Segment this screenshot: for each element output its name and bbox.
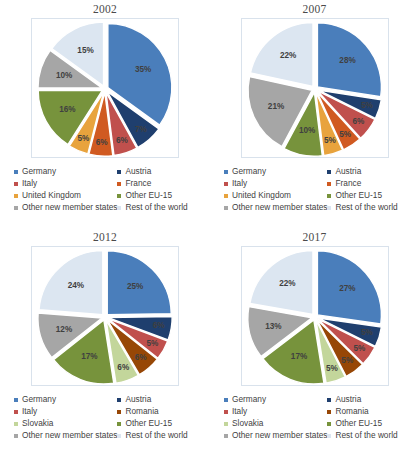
- legend-item-label: Italy: [232, 178, 247, 189]
- legend-swatch-icon: [224, 206, 228, 210]
- legend-item[interactable]: Rest of the world: [117, 430, 200, 441]
- legend-swatch-icon: [117, 182, 121, 186]
- legend-swatch-icon: [117, 170, 121, 174]
- legend-item-label: Austria: [335, 394, 361, 405]
- legend-item[interactable]: Germany: [224, 394, 327, 405]
- pie-slice-label: 5%: [146, 339, 159, 348]
- legend-item[interactable]: Slovakia: [14, 418, 117, 429]
- legend-item[interactable]: Other EU-15: [117, 418, 200, 429]
- legend-item[interactable]: Italy: [224, 406, 327, 417]
- legend-item[interactable]: Rest of the world: [327, 430, 409, 441]
- legend-item-label: Austria: [335, 166, 361, 177]
- legend-item[interactable]: Romania: [117, 406, 200, 417]
- chart-title-2017: 2017: [210, 229, 419, 245]
- legend-swatch-icon: [117, 422, 121, 426]
- legend-item-label: Rest of the world: [335, 430, 397, 441]
- legend-item[interactable]: France: [117, 178, 200, 189]
- legend-2017: GermanyAustriaItalyRomaniaSlovakiaOther …: [210, 394, 419, 441]
- legend-item-label: Other new member states: [22, 430, 117, 441]
- legend-item[interactable]: Germany: [14, 166, 117, 177]
- legend-item-label: Rest of the world: [335, 202, 397, 213]
- pie-slice-label: 25%: [127, 282, 144, 291]
- legend-swatch-icon: [327, 170, 331, 174]
- pie-svg: 27%5%5%5%5%17%13%22%: [242, 247, 388, 385]
- pie-slice-label: 7%: [135, 125, 148, 134]
- legend-item[interactable]: Other EU-15: [117, 190, 200, 201]
- legend-swatch-icon: [14, 422, 18, 426]
- legend-item-label: Italy: [22, 406, 37, 417]
- chart-title-2002: 2002: [0, 1, 210, 17]
- legend-item-label: Romania: [125, 406, 158, 417]
- legend-item-label: Germany: [232, 394, 266, 405]
- pie-slice-label: 6%: [135, 353, 148, 362]
- pie-slice-label: 17%: [81, 352, 98, 361]
- pie-slice-label: 27%: [339, 284, 356, 293]
- legend-item[interactable]: Other new member states: [224, 430, 327, 441]
- pie-slice-label: 35%: [135, 65, 152, 74]
- legend-swatch-icon: [117, 434, 121, 438]
- legend-item-label: France: [125, 178, 151, 189]
- plot-area-2017: 27%5%5%5%5%17%13%22%: [241, 246, 389, 386]
- legend-swatch-icon: [327, 182, 331, 186]
- legend-item[interactable]: United Kingdom: [224, 190, 327, 201]
- pie-slice-label: 15%: [77, 46, 94, 55]
- chart-title-2012: 2012: [0, 229, 210, 245]
- legend-item[interactable]: Rest of the world: [117, 202, 200, 213]
- legend-swatch-icon: [117, 410, 121, 414]
- pie-wrapper: 27%5%5%5%5%17%13%22%: [242, 247, 388, 385]
- legend-item[interactable]: Italy: [224, 178, 327, 189]
- legend-item[interactable]: Rest of the world: [327, 202, 409, 213]
- legend-item-label: Austria: [125, 394, 151, 405]
- pie-wrapper: 25%6%5%6%6%17%12%24%: [32, 247, 178, 385]
- legend-swatch-icon: [14, 182, 18, 186]
- legend-item[interactable]: France: [327, 178, 409, 189]
- legend-item[interactable]: Austria: [327, 166, 409, 177]
- pie-svg: 25%6%5%6%6%17%12%24%: [32, 247, 178, 385]
- legend-item[interactable]: Austria: [117, 394, 200, 405]
- legend-swatch-icon: [327, 434, 331, 438]
- chart-panel-2007: 2007 28%5%6%5%5%10%21%22% GermanyAustria…: [210, 0, 419, 228]
- legend-swatch-icon: [117, 194, 121, 198]
- pie-wrapper: 35%7%6%6%5%16%10%15%: [32, 19, 178, 157]
- legend-item[interactable]: Other new member states: [14, 202, 117, 213]
- pie-slice-label: 5%: [326, 364, 339, 373]
- legend-item[interactable]: Germany: [14, 394, 117, 405]
- pie-slice-label: 22%: [279, 279, 296, 288]
- legend-2007: GermanyAustriaItalyFranceUnited KingdomO…: [210, 166, 419, 213]
- legend-swatch-icon: [117, 206, 121, 210]
- pie-slice-label: 28%: [339, 56, 356, 65]
- legend-2002: GermanyAustriaItalyFranceUnited KingdomO…: [0, 166, 210, 213]
- legend-swatch-icon: [14, 206, 18, 210]
- legend-item[interactable]: United Kingdom: [14, 190, 117, 201]
- pie-slice-label: 6%: [153, 321, 166, 330]
- legend-item[interactable]: Austria: [117, 166, 200, 177]
- pie-slice-label: 24%: [68, 281, 85, 290]
- legend-item-label: Slovakia: [232, 418, 263, 429]
- chart-title-2007: 2007: [210, 1, 419, 17]
- chart-panel-2012: 2012 25%6%5%6%6%17%12%24% GermanyAustria…: [0, 228, 210, 454]
- legend-item[interactable]: Slovakia: [224, 418, 327, 429]
- legend-item[interactable]: Other new member states: [14, 430, 117, 441]
- legend-swatch-icon: [327, 422, 331, 426]
- legend-item[interactable]: Other EU-15: [327, 418, 409, 429]
- legend-item[interactable]: Other EU-15: [327, 190, 409, 201]
- pie-slice-label: 5%: [360, 101, 373, 110]
- legend-item[interactable]: Italy: [14, 178, 117, 189]
- legend-item[interactable]: Germany: [224, 166, 327, 177]
- legend-item[interactable]: Romania: [327, 406, 409, 417]
- legend-item-label: Italy: [22, 178, 37, 189]
- legend-swatch-icon: [14, 410, 18, 414]
- legend-item[interactable]: Italy: [14, 406, 117, 417]
- pie-slice-label: 5%: [361, 328, 374, 337]
- legend-item[interactable]: Other new member states: [224, 202, 327, 213]
- legend-item-label: Other EU-15: [125, 190, 172, 201]
- legend-swatch-icon: [14, 194, 18, 198]
- pie-svg: 28%5%6%5%5%10%21%22%: [242, 19, 388, 157]
- pie-slice-label: 6%: [116, 136, 129, 145]
- legend-item-label: Germany: [232, 166, 266, 177]
- legend-item-label: Other EU-15: [335, 418, 382, 429]
- legend-item[interactable]: Austria: [327, 394, 409, 405]
- pie-slice-label: 22%: [279, 51, 296, 60]
- pie-slice-label: 21%: [267, 102, 284, 111]
- legend-swatch-icon: [327, 398, 331, 402]
